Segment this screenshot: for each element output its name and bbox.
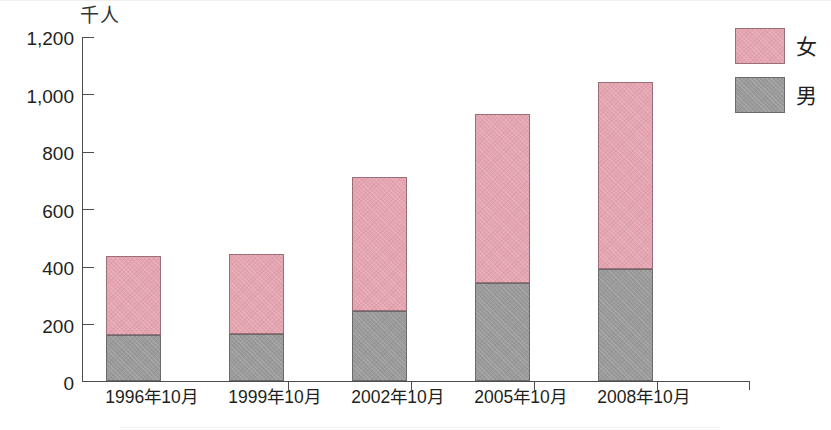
y-tick-600 bbox=[83, 209, 94, 210]
y-tick-200 bbox=[83, 324, 94, 325]
bar-segment-male-1996[interactable] bbox=[106, 335, 161, 381]
y-tick-1000 bbox=[83, 94, 94, 95]
bar-segment-male-2002[interactable] bbox=[352, 311, 407, 381]
legend-label-female: 女 bbox=[796, 36, 817, 57]
bar-segment-female-1999[interactable] bbox=[229, 254, 284, 334]
y-axis-tick-label-1200: 1,200 bbox=[26, 29, 74, 48]
x-axis-label-2008: 2008年10月 bbox=[576, 389, 711, 407]
x-axis-label-1999: 1999年10月 bbox=[207, 389, 342, 407]
bar-segment-male-2005[interactable] bbox=[475, 283, 530, 381]
y-tick-800 bbox=[83, 152, 94, 153]
bar-segment-female-2002[interactable] bbox=[352, 177, 407, 311]
legend: 女 男 bbox=[735, 28, 831, 126]
stacked-bar-chart: 千人 1,200 1,000 800 600 400 200 0 bbox=[0, 0, 831, 430]
y-tick-400 bbox=[83, 267, 94, 268]
scan-edge-bottom bbox=[120, 427, 720, 428]
y-axis-tick-label-800: 800 bbox=[42, 144, 74, 163]
y-axis-unit-label: 千人 bbox=[80, 6, 119, 25]
bar-segment-female-1996[interactable] bbox=[106, 256, 161, 335]
y-axis-tick-label-1000: 1,000 bbox=[26, 87, 74, 106]
y-tick-1200 bbox=[83, 37, 94, 38]
legend-swatch-female-icon bbox=[735, 28, 785, 64]
legend-item-male[interactable]: 男 bbox=[735, 77, 831, 113]
y-axis-tick-label-400: 400 bbox=[42, 259, 74, 278]
x-axis-label-2002: 2002年10月 bbox=[330, 389, 465, 407]
bar-group-1996[interactable] bbox=[106, 256, 161, 381]
bar-segment-female-2008[interactable] bbox=[598, 82, 653, 269]
bar-group-1999[interactable] bbox=[229, 254, 284, 381]
x-axis-label-1996: 1996年10月 bbox=[84, 389, 219, 407]
x-axis-label-2005: 2005年10月 bbox=[453, 389, 588, 407]
legend-label-male: 男 bbox=[796, 85, 817, 106]
y-axis-tick-label-600: 600 bbox=[42, 202, 74, 221]
plot-area bbox=[82, 37, 750, 382]
bar-segment-male-2008[interactable] bbox=[598, 269, 653, 381]
legend-item-female[interactable]: 女 bbox=[735, 28, 831, 64]
legend-swatch-male-icon bbox=[735, 77, 785, 113]
scan-edge-top bbox=[0, 0, 831, 1]
bar-segment-male-1999[interactable] bbox=[229, 334, 284, 381]
x-tick-5 bbox=[749, 382, 750, 390]
y-axis-tick-label-0: 0 bbox=[63, 374, 74, 393]
bar-group-2002[interactable] bbox=[352, 177, 407, 381]
bar-group-2005[interactable] bbox=[475, 114, 530, 381]
x-axis-line bbox=[82, 381, 750, 382]
bar-group-2008[interactable] bbox=[598, 82, 653, 381]
bar-segment-female-2005[interactable] bbox=[475, 114, 530, 283]
y-axis-tick-label-200: 200 bbox=[42, 317, 74, 336]
